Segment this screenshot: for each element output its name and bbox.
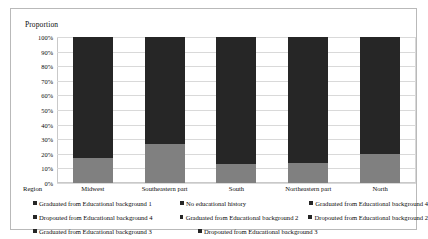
x-axis-title: Region <box>23 185 42 192</box>
category-label: Northeastern part <box>283 185 334 192</box>
legend-swatch-icon <box>33 229 37 233</box>
legend-row: Graduated from Educational background 1N… <box>21 196 428 210</box>
y-axis-tick-label: 20% <box>13 150 53 157</box>
bar-slot <box>355 37 406 183</box>
legend-item[interactable]: Dropouted from Educational background 3 <box>198 228 343 235</box>
legend-swatch-icon <box>180 201 184 205</box>
legend-item[interactable]: Graduated from Educational background 3 <box>21 228 198 235</box>
legend-label: Graduated from Educational background 3 <box>39 228 152 235</box>
legend-item[interactable]: No educational history <box>180 200 309 207</box>
legend-swatch-icon <box>198 229 202 233</box>
bar-slot <box>211 37 262 183</box>
y-axis-tick-label: 80% <box>13 63 53 70</box>
stacked-bar[interactable] <box>288 37 328 183</box>
category-label: Midwest <box>67 185 118 192</box>
bar-group <box>57 37 416 183</box>
x-axis-labels: Region MidwestSoutheastern partSouthNort… <box>21 185 428 196</box>
chart-legend: Graduated from Educational background 1N… <box>21 196 428 238</box>
legend-row: Dropouted from Educational background 4G… <box>21 210 428 224</box>
legend-swatch-icon <box>309 201 313 205</box>
legend-swatch-icon <box>33 201 37 205</box>
legend-swatch-icon <box>180 215 184 219</box>
category-label: North <box>355 185 406 192</box>
stacked-bar[interactable] <box>360 37 400 183</box>
bar-segment[interactable] <box>145 37 185 144</box>
legend-label: Dropouted from Educational background 2 <box>314 214 428 221</box>
category-label: Southeastern part <box>139 185 190 192</box>
bar-slot <box>283 37 334 183</box>
legend-swatch-icon <box>33 215 37 219</box>
bar-segment[interactable] <box>360 37 400 154</box>
legend-item[interactable]: Graduated from Educational background 2 <box>180 214 309 221</box>
bar-segment[interactable] <box>288 163 328 183</box>
chart-container: Proportion 100%90%80%70%60%50%40%30%20%1… <box>10 8 417 230</box>
legend-label: Graduated from Educational background 1 <box>39 200 152 207</box>
y-axis-title: Proportion <box>25 20 58 29</box>
bar-segment[interactable] <box>145 144 185 183</box>
legend-item[interactable]: Dropouted from Educational background 2 <box>308 214 428 221</box>
stacked-bar[interactable] <box>216 37 256 183</box>
y-axis-tick-label: 30% <box>13 136 53 143</box>
legend-item[interactable]: Graduated from Educational background 4 <box>309 200 428 207</box>
stacked-bar[interactable] <box>73 37 113 183</box>
gridline <box>57 183 416 184</box>
category-labels: MidwestSoutheastern partSouthNortheaster… <box>57 185 416 192</box>
category-label: South <box>211 185 262 192</box>
bar-segment[interactable] <box>288 37 328 163</box>
y-axis-tick-label: 70% <box>13 77 53 84</box>
stacked-bar[interactable] <box>145 37 185 183</box>
bar-segment[interactable] <box>73 37 113 158</box>
plot-area: 100%90%80%70%60%50%40%30%20%10%0% <box>57 37 416 183</box>
legend-item[interactable]: Dropouted from Educational background 4 <box>21 214 180 221</box>
bar-slot <box>139 37 190 183</box>
bar-segment[interactable] <box>73 158 113 183</box>
y-axis-tick-label: 40% <box>13 121 53 128</box>
y-axis-tick-label: 100% <box>13 34 53 41</box>
legend-label: Dropouted from Educational background 3 <box>204 228 318 235</box>
y-axis-tick-label: 50% <box>13 107 53 114</box>
y-axis-tick-label: 10% <box>13 165 53 172</box>
bar-segment[interactable] <box>216 164 256 183</box>
y-axis-tick-label: 60% <box>13 92 53 99</box>
legend-label: Graduated from Educational background 4 <box>315 200 428 207</box>
legend-item[interactable]: Graduated from Educational background 1 <box>21 200 180 207</box>
bar-segment[interactable] <box>216 37 256 164</box>
legend-label: Graduated from Educational background 2 <box>186 214 299 221</box>
bar-slot <box>67 37 118 183</box>
legend-swatch-icon <box>308 215 312 219</box>
bar-segment[interactable] <box>360 154 400 183</box>
legend-row: Graduated from Educational background 3D… <box>21 224 428 238</box>
legend-label: No educational history <box>186 200 246 207</box>
y-axis-tick-label: 90% <box>13 48 53 55</box>
legend-label: Dropouted from Educational background 4 <box>39 214 153 221</box>
